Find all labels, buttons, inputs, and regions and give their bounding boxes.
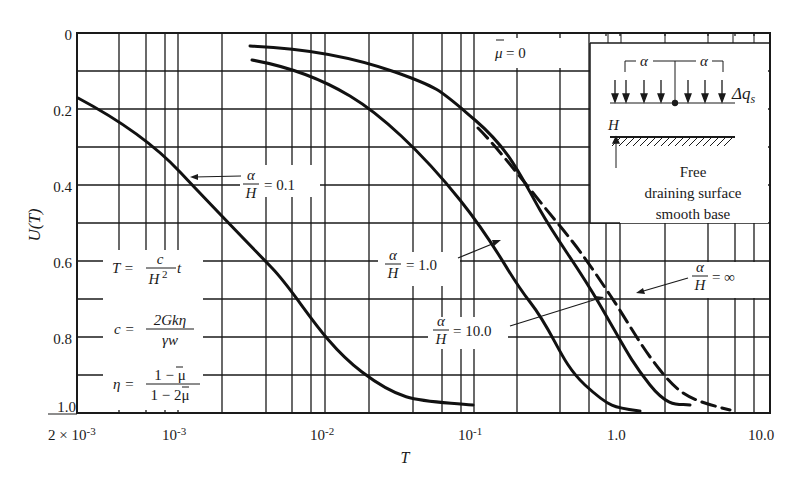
svg-text:= 0: = 0 (506, 45, 526, 61)
svg-text:μ: μ (494, 45, 503, 61)
svg-text:α: α (437, 313, 446, 329)
y-tick-0.2: 0.2 (53, 103, 72, 119)
curve-alpha-1.0 (252, 60, 640, 411)
y-tick-0.8: 0.8 (53, 331, 72, 347)
y-tick-0: 0 (65, 27, 73, 43)
svg-text:α: α (696, 259, 705, 275)
svg-text:γw: γw (162, 332, 178, 348)
x-tick-1e-3: 10-3 (162, 425, 187, 443)
svg-text:c: c (157, 251, 164, 267)
inset-alpha-left: α (640, 53, 649, 69)
y-axis-ticks: 0 0.2 0.4 0.6 0.8 1.0 (48, 27, 77, 415)
x-axis-ticks: 2 × 10-3 10-3 10-2 10-1 1.0 10.0 (48, 425, 774, 443)
svg-text:η =: η = (113, 376, 134, 392)
inset-text-line3: smooth base (656, 206, 731, 222)
svg-text:U(T): U(T) (25, 208, 44, 241)
svg-text:1 − 2μ: 1 − 2μ (150, 387, 189, 403)
y-axis-label: U(T) (25, 208, 44, 241)
inset-alpha-right: α (700, 53, 709, 69)
x-axis-label: T (401, 449, 411, 466)
svg-text:T =: T = (112, 260, 134, 276)
svg-text:= 1.0: = 1.0 (406, 257, 437, 273)
svg-text:α: α (247, 167, 256, 183)
svg-text:= ∞: = ∞ (712, 269, 735, 285)
svg-text:= 0.1: = 0.1 (264, 177, 295, 193)
x-tick-1.0: 1.0 (607, 427, 626, 443)
y-tick-0.6: 0.6 (53, 255, 72, 271)
inset-H: H (607, 117, 620, 133)
inset-text-line2: draining surface (644, 185, 741, 201)
svg-text:H: H (245, 185, 258, 201)
svg-text:H: H (694, 277, 707, 293)
svg-text:c =: c = (114, 321, 135, 337)
svg-text:2Gkη: 2Gkη (154, 312, 186, 328)
svg-text:= 10.0: = 10.0 (453, 323, 491, 339)
x-tick-1e-1: 10-1 (458, 425, 482, 443)
inset-text-line1: Free (680, 164, 707, 180)
x-tick-10.0: 10.0 (748, 427, 774, 443)
y-tick-0.4: 0.4 (53, 179, 72, 195)
consolidation-chart: 0 0.2 0.4 0.6 0.8 1.0 U(T) 2 × 10-3 10-3… (0, 0, 811, 489)
svg-text:H: H (148, 271, 161, 287)
x-tick-2e-3: 2 × 10-3 (48, 425, 96, 443)
svg-text:H: H (435, 331, 448, 347)
svg-text:H: H (387, 265, 400, 281)
svg-text:1 − μ: 1 − μ (154, 367, 186, 383)
svg-text:2: 2 (162, 268, 168, 280)
svg-text:α: α (389, 247, 398, 263)
x-tick-1e-2: 10-2 (310, 425, 334, 443)
y-tick-1.0: 1.0 (57, 399, 76, 415)
